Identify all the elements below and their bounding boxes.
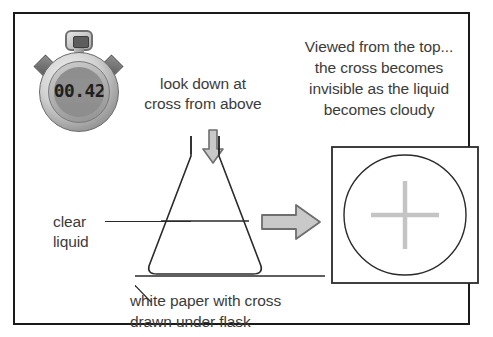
stopwatch-crown-inner: [73, 36, 89, 48]
clear-liquid-leader-line: [105, 221, 191, 222]
arrow-right-icon: [260, 202, 322, 242]
viewed-from-top-label: Viewed from the top... the cross becomes…: [273, 36, 485, 120]
stopwatch: 00.42: [33, 30, 125, 134]
clear-liquid-label: clear liquid: [53, 212, 117, 252]
top-view-diagram: [330, 145, 480, 285]
figure-canvas: 00.42 look down at cross from above View…: [0, 0, 493, 337]
stopwatch-lcd-screen: 00.42: [54, 79, 104, 103]
look-down-label: look down at cross from above: [128, 74, 278, 114]
figure-frame: 00.42 look down at cross from above View…: [13, 12, 470, 325]
stopwatch-time-display: 00.42: [54, 81, 104, 101]
white-paper-label: white paper with cross drawn under flask: [130, 290, 360, 332]
stopwatch-face: 00.42: [54, 67, 104, 117]
stopwatch-body: 00.42: [39, 52, 119, 132]
stopwatch-bezel: 00.42: [48, 61, 110, 123]
